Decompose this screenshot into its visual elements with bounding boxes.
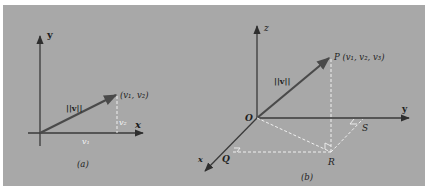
vector-v bbox=[40, 95, 116, 133]
point-label: (v₁, v₂) bbox=[120, 90, 148, 100]
point-s-label: S bbox=[362, 123, 368, 133]
x-axis bbox=[205, 118, 257, 171]
point-q-label: Q bbox=[222, 154, 230, 164]
vector-norm-label: ||v|| bbox=[274, 76, 290, 86]
panel-b-3d-vector: z P (v₁, v₂, v₃) ||v|| O y S R Q x (b) bbox=[197, 23, 409, 182]
r-to-s-dashed bbox=[331, 119, 363, 152]
right-angle-s bbox=[350, 119, 357, 124]
vector-figure: y x (v₁, v₂) ||v|| v₂ v₁ (a) z P (v₁, v₂… bbox=[0, 0, 434, 195]
right-angle-q bbox=[234, 148, 240, 152]
point-r-label: R bbox=[327, 157, 335, 167]
origin-label: O bbox=[245, 113, 253, 123]
caption-b: (b) bbox=[301, 172, 313, 182]
caption-a: (a) bbox=[77, 159, 89, 169]
x-axis-label: x bbox=[134, 119, 142, 130]
point-p-label: P (v₁, v₂, v₃) bbox=[333, 52, 385, 62]
v1-label: v₁ bbox=[82, 137, 90, 146]
z-axis-label: z bbox=[263, 23, 269, 33]
o-to-r-dashed bbox=[257, 118, 331, 152]
vector-v bbox=[257, 58, 329, 118]
y-axis-label: y bbox=[46, 29, 54, 40]
panel-a-2d-vector: y x (v₁, v₂) ||v|| v₂ v₁ (a) bbox=[28, 29, 148, 169]
x-axis-label: x bbox=[197, 154, 203, 164]
vector-norm-label: ||v|| bbox=[66, 103, 82, 113]
right-angle-r bbox=[325, 143, 331, 149]
y-axis-label: y bbox=[401, 104, 408, 114]
v2-label: v₂ bbox=[119, 118, 127, 127]
